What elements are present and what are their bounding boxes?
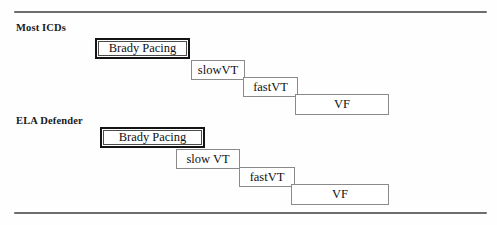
zone-box-brady-pacing-most-icds: Brady Pacing <box>95 38 190 59</box>
zone-box-fast-vt-most-icds: fastVT <box>243 77 298 97</box>
zone-label-brady-pacing: Brady Pacing <box>109 42 177 55</box>
zone-label-fast-vt: fastVT <box>253 80 288 93</box>
bottom-divider-rule <box>14 212 487 214</box>
group-label-most-icds: Most ICDs <box>16 22 66 33</box>
zone-label-slow-vt: slowVT <box>198 63 238 76</box>
zone-box-vf-ela-defender: VF <box>291 184 389 205</box>
top-divider-rule <box>14 11 487 13</box>
zone-box-slow-vt-ela-defender: slow VT <box>176 149 240 169</box>
zone-label-brady-pacing: Brady Pacing <box>119 131 187 144</box>
zone-box-fast-vt-ela-defender: fastVT <box>239 167 295 187</box>
zone-label-fast-vt: fastVT <box>250 170 285 183</box>
zone-box-vf-most-icds: VF <box>295 94 389 115</box>
group-label-ela-defender: ELA Defender <box>16 115 83 126</box>
zone-box-slow-vt-most-icds: slowVT <box>191 60 245 80</box>
icd-zone-figure: Most ICDs Brady Pacing slowVT fastVT VF … <box>0 0 497 225</box>
zone-label-vf: VF <box>334 98 350 111</box>
zone-box-brady-pacing-ela-defender: Brady Pacing <box>100 127 205 148</box>
zone-label-vf: VF <box>332 188 348 201</box>
zone-label-slow-vt: slow VT <box>186 152 229 165</box>
